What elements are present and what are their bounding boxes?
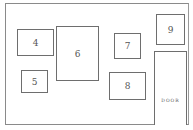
frame-8-label: 8 <box>125 81 131 91</box>
frame-4-label: 4 <box>33 38 39 48</box>
frame-7: 7 <box>114 33 141 59</box>
frame-9-label: 9 <box>168 25 174 35</box>
frame-5: 5 <box>21 70 48 93</box>
frame-6: 6 <box>56 26 99 81</box>
frame-6-label: 6 <box>75 49 81 59</box>
frame-7-label: 7 <box>125 41 131 51</box>
frame-4: 4 <box>17 29 54 56</box>
frame-5-label: 5 <box>32 77 38 87</box>
frame-9: 9 <box>156 14 185 45</box>
door-label: DOOR <box>161 98 179 103</box>
frame-8: 8 <box>109 72 146 100</box>
door: DOOR <box>154 51 187 125</box>
